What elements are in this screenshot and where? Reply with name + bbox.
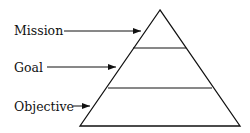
- label-objective: Objective: [14, 99, 74, 114]
- pyramid-outline: [80, 10, 240, 126]
- label-goal: Goal: [14, 60, 43, 75]
- label-mission: Mission: [14, 23, 63, 38]
- pyramid-diagram: Mission Goal Objective: [0, 0, 250, 133]
